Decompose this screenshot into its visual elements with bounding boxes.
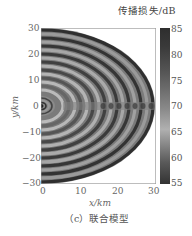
x-axis-label: x/km: [89, 198, 111, 208]
heatmap-plot: [41, 28, 156, 184]
y-axis-label: y/km: [10, 96, 20, 118]
colorbar: [160, 28, 170, 184]
cb-tick-75: 75: [171, 77, 182, 86]
x-tick-30: 30: [148, 187, 159, 196]
y-tick-neg30: −30: [22, 179, 41, 188]
x-tick-0: 0: [40, 187, 46, 196]
y-tick-30: 30: [28, 24, 39, 33]
x-tick-10: 10: [75, 187, 86, 196]
cb-tick-55: 55: [171, 179, 182, 188]
cb-tick-60: 60: [171, 154, 182, 163]
y-tick-neg20: −20: [22, 154, 41, 163]
cb-tick-85: 85: [171, 25, 182, 34]
figure-caption: （c）联合模型: [64, 211, 129, 225]
y-tick-0: 0: [33, 102, 39, 111]
y-tick-10: 10: [28, 76, 39, 85]
cb-tick-70: 70: [171, 102, 182, 111]
cb-tick-65: 65: [171, 128, 182, 137]
colorbar-title: 传播损失/dB: [118, 3, 176, 17]
x-tick-20: 20: [112, 187, 123, 196]
y-tick-20: 20: [28, 50, 39, 59]
cb-tick-80: 80: [171, 51, 182, 60]
y-tick-neg10: −10: [22, 128, 41, 137]
